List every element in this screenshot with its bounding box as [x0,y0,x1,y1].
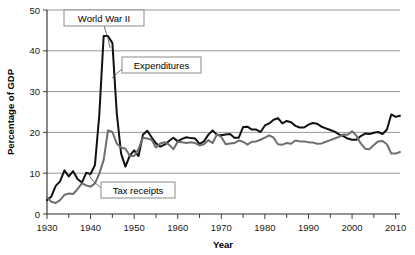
chart-background [0,0,415,255]
y-tick-label-40: 40 [29,45,40,56]
x-tick-label-1950: 1950 [124,222,145,233]
annotation-label-tax-receipts: Tax receipts [113,185,164,196]
y-tick-label-30: 30 [29,86,40,97]
y-tick-label-50: 50 [29,5,40,16]
x-tick-label-1970: 1970 [211,222,232,233]
chart-container: 01020304050 1930194019501960197019801990… [0,0,415,255]
gdp-percentage-line-chart: 01020304050 1930194019501960197019801990… [0,0,415,255]
x-tick-label-2010: 2010 [385,222,406,233]
annotation-label-world-war-ii: World War II [78,13,130,24]
x-tick-label-1930: 1930 [36,222,57,233]
y-tick-label-20: 20 [29,127,40,138]
annotation-label-expenditures: Expenditures [134,60,190,71]
x-tick-label-1960: 1960 [167,222,188,233]
x-axis-tick-labels: 193019401950196019701980199020002010 [36,222,406,233]
x-tick-label-1990: 1990 [298,222,319,233]
y-tick-label-10: 10 [29,168,40,179]
x-tick-label-2000: 2000 [341,222,362,233]
x-tick-label-1940: 1940 [80,222,101,233]
x-axis-title: Year [213,239,233,250]
y-tick-label-0: 0 [35,209,40,220]
x-tick-label-1980: 1980 [254,222,275,233]
y-axis-title: Percentage of GDP [5,68,16,155]
